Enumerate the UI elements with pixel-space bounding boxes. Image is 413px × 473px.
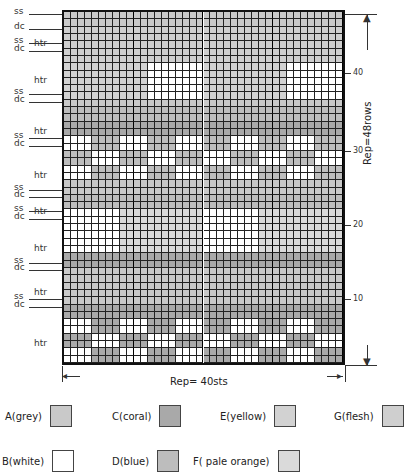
chart-cell <box>294 305 301 312</box>
chart-cell <box>64 305 71 312</box>
chart-cell <box>315 41 322 48</box>
chart-cell <box>273 202 280 209</box>
chart-cell <box>294 122 301 129</box>
chart-cell <box>148 253 155 260</box>
chart-cell <box>85 341 92 348</box>
chart-cell <box>238 224 245 231</box>
chart-cell <box>266 261 273 268</box>
chart-cell <box>231 188 238 195</box>
chart-cell <box>204 49 211 56</box>
chart-cell <box>155 356 162 363</box>
chart-cell <box>252 239 259 246</box>
chart-cell <box>141 188 148 195</box>
chart-cell <box>183 283 190 290</box>
chart-cell <box>204 202 211 209</box>
chart-cell <box>231 129 238 136</box>
chart-cell <box>329 341 336 348</box>
chart-cell <box>322 231 329 238</box>
chart-cell <box>336 246 343 253</box>
chart-cell <box>266 151 273 158</box>
chart-cell <box>231 136 238 143</box>
chart-cell <box>315 166 322 173</box>
chart-cell <box>120 180 127 187</box>
chart-cell <box>204 275 211 282</box>
stitch-label-dc: dc <box>14 138 25 148</box>
chart-cell <box>71 305 78 312</box>
chart-cell <box>190 56 197 63</box>
chart-cell <box>113 71 120 78</box>
stitch-label-dc: dc <box>14 21 25 31</box>
chart-cell <box>224 305 231 312</box>
chart-cell <box>85 151 92 158</box>
chart-cell <box>231 261 238 268</box>
chart-cell <box>336 202 343 209</box>
chart-cell <box>134 202 141 209</box>
chart-cell <box>134 231 141 238</box>
chart-cell <box>113 173 120 180</box>
chart-cell <box>204 114 211 121</box>
chart-cell <box>224 209 231 216</box>
chart-cell <box>287 305 294 312</box>
chart-cell <box>210 158 217 165</box>
chart-cell <box>315 100 322 107</box>
chart-cell <box>169 224 176 231</box>
chart-cell <box>322 261 329 268</box>
chart-cell <box>273 129 280 136</box>
chart-cell <box>217 312 224 319</box>
chart-cell <box>183 334 190 341</box>
chart-cell <box>329 12 336 19</box>
chart-cell <box>141 253 148 260</box>
chart-cell <box>252 202 259 209</box>
chart-cell <box>287 268 294 275</box>
chart-cell <box>148 122 155 129</box>
chart-cell <box>210 49 217 56</box>
chart-cell <box>315 231 322 238</box>
chart-cell <box>78 71 85 78</box>
chart-cell <box>245 188 252 195</box>
chart-cell <box>92 34 99 41</box>
chart-cell <box>204 19 211 26</box>
chart-cell <box>217 202 224 209</box>
chart-cell <box>294 144 301 151</box>
chart-cell <box>308 297 315 304</box>
chart-cell <box>287 71 294 78</box>
chart-cell <box>217 78 224 85</box>
chart-cell <box>141 224 148 231</box>
chart-cell <box>106 290 113 297</box>
chart-cell <box>113 41 120 48</box>
chart-cell <box>252 158 259 165</box>
chart-cell <box>134 283 141 290</box>
chart-cell <box>127 19 134 26</box>
chart-cell <box>183 202 190 209</box>
chart-cell <box>252 136 259 143</box>
chart-cell <box>273 151 280 158</box>
chart-cell <box>190 78 197 85</box>
chart-cell <box>238 144 245 151</box>
chart-cell <box>197 195 204 202</box>
chart-cell <box>113 297 120 304</box>
chart-cell <box>120 195 127 202</box>
chart-cell <box>329 49 336 56</box>
chart-cell <box>252 49 259 56</box>
chart-cell <box>155 312 162 319</box>
chart-cell <box>245 275 252 282</box>
chart-cell <box>210 305 217 312</box>
chart-cell <box>273 158 280 165</box>
chart-cell <box>273 173 280 180</box>
chart-cell <box>204 34 211 41</box>
chart-cell <box>252 71 259 78</box>
chart-cell <box>64 180 71 187</box>
chart-cell <box>64 261 71 268</box>
chart-cell <box>71 261 78 268</box>
chart-cell <box>224 63 231 70</box>
chart-cell <box>64 71 71 78</box>
chart-cell <box>238 253 245 260</box>
chart-cell <box>155 268 162 275</box>
chart-cell <box>329 107 336 114</box>
chart-cell <box>238 297 245 304</box>
chart-cell <box>252 144 259 151</box>
chart-cell <box>106 348 113 355</box>
chart-cell <box>85 356 92 363</box>
chart-cell <box>127 136 134 143</box>
chart-cell <box>183 41 190 48</box>
